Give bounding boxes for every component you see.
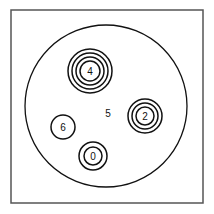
- zone-4: 4: [68, 49, 112, 93]
- center-label: 5: [105, 108, 111, 119]
- zone-0: 0: [79, 142, 107, 170]
- zone-label: 6: [60, 122, 66, 133]
- petri-dish-diagram: 5 4206: [0, 0, 214, 214]
- zone-6: 6: [51, 115, 75, 139]
- zone-label: 4: [87, 66, 93, 77]
- outer-frame: [11, 10, 203, 203]
- zone-label: 2: [142, 111, 148, 122]
- zone-label: 0: [90, 151, 96, 162]
- zone-2: 2: [128, 99, 162, 133]
